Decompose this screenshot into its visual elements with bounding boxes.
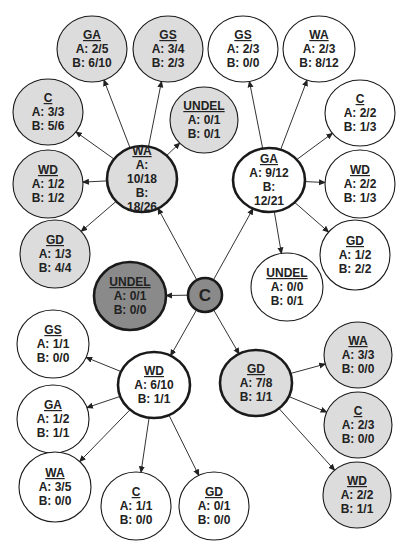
node-value-line: B: (263, 180, 276, 194)
node-gd-c: CA: 2/3B: 0/0 (324, 392, 392, 458)
node-title: WD (144, 364, 164, 378)
node-wa-ga: GAA: 2/5B: 6/10 (57, 16, 127, 82)
node-value-line: A: 0/1 (114, 289, 147, 303)
node-value-line: A: 2/5 (76, 42, 109, 56)
node-value-line: B: 1/1 (138, 392, 171, 406)
edge-arrow-root-to-ga (213, 209, 253, 280)
edge-arrow-root-to-wd (171, 310, 197, 356)
node-value-line: B: 0/0 (198, 513, 231, 527)
edge-arrow-wa-to-wa-wd (83, 181, 107, 182)
node-value-line: B: 0/0 (227, 56, 260, 70)
node-title: C (199, 286, 211, 305)
node-wd-c: CA: 1/1B: 0/0 (101, 472, 171, 540)
node-wd-ga: GAA: 1/2B: 1/1 (17, 385, 89, 453)
node-value-line: 18/26 (127, 200, 157, 214)
node-ga-gd: GDA: 1/2B: 2/2 (320, 220, 390, 290)
node-title: WD (38, 163, 58, 177)
node-ga-c: CA: 2/2B: 1/3 (325, 80, 395, 146)
node-value-line: A: 2/3 (227, 42, 260, 56)
node-title: UNDEL (109, 275, 150, 289)
nodes-layer: CUNDELA: 0/1B: 0/0WAA:10/18B:18/26GAA: 2… (13, 16, 395, 540)
node-ga: GAA: 9/12B:12/21 (233, 148, 305, 212)
node-title: GD (247, 362, 265, 376)
node-value-line: A: 1/2 (37, 412, 70, 426)
node-title: WA (132, 144, 152, 158)
edge-arrow-gd-to-gd-c (289, 397, 327, 413)
node-value-line: A: 2/2 (344, 177, 377, 191)
node-wd-wa: WAA: 3/5B: 0/0 (19, 452, 91, 522)
node-ga-wd: WDA: 2/2B: 1/3 (325, 150, 395, 218)
edge-arrow-root-to-gd (214, 310, 240, 354)
edge-arrow-ga-to-ga-wd (305, 182, 325, 183)
node-value-line: B: 1/2 (32, 191, 65, 205)
edge-arrow-root-to-wa (158, 208, 197, 280)
node-title: UNDEL (266, 266, 307, 280)
edge-arrow-wa-to-wa-ga (104, 80, 130, 148)
node-title: C (132, 485, 141, 499)
node-value-line: A: 9/12 (249, 166, 289, 180)
node-title: C (356, 92, 365, 106)
node-value-line: B: (136, 186, 149, 200)
node-value-line: B: 0/0 (342, 362, 375, 376)
edge-arrow-wa-to-wa-gd (81, 201, 116, 231)
node-title: GS (44, 323, 61, 337)
node-value-line: B: 1/1 (37, 426, 70, 440)
node-value-line: A: 1/3 (39, 247, 72, 261)
node-wa: WAA:10/18B:18/26 (107, 144, 177, 214)
edge-arrow-wa-to-wa-undel (167, 143, 180, 156)
node-title: C (354, 404, 363, 418)
edge-arrow-gd-to-gd-wa (291, 364, 326, 374)
node-value-line: B: 8/12 (299, 56, 339, 70)
node-title: GD (46, 233, 64, 247)
node-root-undel: UNDELA: 0/1B: 0/0 (94, 262, 166, 330)
node-value-line: B: 1/1 (240, 390, 273, 404)
node-value-line: B: 0/0 (342, 432, 375, 446)
node-ga-undel: UNDELA: 0/0B: 0/1 (251, 253, 323, 321)
edge-arrow-wd-to-wd-gd (169, 415, 199, 475)
node-value-line: A: (136, 158, 149, 172)
node-value-line: A: 3/3 (32, 105, 65, 119)
node-title: WA (309, 28, 329, 42)
node-value-line: A: 3/5 (39, 480, 72, 494)
node-value-line: B: 0/1 (188, 127, 221, 141)
node-gd-wa: WAA: 3/3B: 0/0 (324, 322, 392, 388)
node-value-line: A: 0/1 (188, 113, 221, 127)
node-value-line: B: 2/3 (152, 56, 185, 70)
node-value-line: A: 2/3 (303, 42, 336, 56)
node-title: GA (260, 152, 278, 166)
node-wa-c: CA: 3/3B: 5/6 (13, 79, 83, 145)
node-title: GS (234, 28, 251, 42)
node-value-line: B: 0/0 (120, 513, 153, 527)
node-value-line: A: 1/2 (339, 248, 372, 262)
node-ga-wa: WAA: 2/3B: 8/12 (283, 16, 355, 82)
tree-diagram: CUNDELA: 0/1B: 0/0WAA:10/18B:18/26GAA: 2… (0, 0, 413, 550)
node-value-line: B: 6/10 (72, 56, 112, 70)
node-value-line: B: 4/4 (39, 261, 72, 275)
edge-arrow-ga-to-ga-undel (274, 212, 281, 254)
node-value-line: B: 2/2 (339, 262, 372, 276)
node-value-line: A: 6/10 (134, 378, 174, 392)
node-value-line: A: 7/8 (240, 376, 273, 390)
edge-arrow-wa-to-wa-c (76, 132, 114, 159)
edge-arrow-ga-to-ga-c (297, 133, 333, 159)
node-value-line: A: 2/2 (344, 106, 377, 120)
node-wa-gd: GDA: 1/3B: 4/4 (20, 220, 90, 288)
node-title: WA (348, 334, 368, 348)
node-value-line: B: 0/1 (271, 294, 304, 308)
node-value-line: A: 1/1 (120, 499, 153, 513)
edge-arrow-wd-to-wd-ga (87, 396, 120, 407)
node-root: C (188, 278, 222, 312)
node-value-line: A: 3/3 (342, 348, 375, 362)
edge-arrow-ga-to-ga-gs (249, 81, 262, 148)
node-value-line: A: 2/2 (341, 488, 374, 502)
node-wa-gs: GSA: 3/4B: 2/3 (133, 16, 203, 82)
node-value-line: B: 1/3 (344, 120, 377, 134)
node-wa-undel: UNDELA: 0/1B: 0/1 (170, 87, 238, 153)
node-ga-gs: GSA: 2/3B: 0/0 (208, 16, 278, 82)
node-title: GD (205, 485, 223, 499)
node-value-line: A: 0/1 (198, 499, 231, 513)
node-wd-gd: GDA: 0/1B: 0/0 (179, 472, 249, 540)
node-title: WA (45, 466, 65, 480)
node-value-line: A: 3/4 (152, 42, 185, 56)
node-title: GA (83, 28, 101, 42)
